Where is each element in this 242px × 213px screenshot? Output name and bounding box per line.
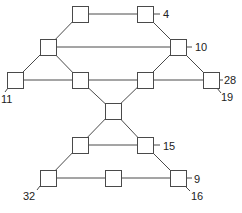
node-E — [8, 73, 24, 89]
node-H — [204, 73, 220, 89]
diagram-canvas: 4102819111591632 — [0, 0, 242, 213]
node-F — [73, 73, 89, 89]
node-label-4: 4 — [163, 8, 169, 20]
network-diagram: 4102819111591632 — [0, 0, 242, 213]
node-M — [106, 171, 122, 187]
node-N — [171, 171, 187, 187]
node-I — [106, 104, 122, 120]
node-label-11: 11 — [1, 93, 12, 105]
node-layer — [8, 7, 220, 187]
node-D — [171, 40, 187, 56]
node-G — [138, 73, 154, 89]
label-tick-32 — [37, 186, 40, 190]
node-C — [41, 40, 57, 56]
node-label-15: 15 — [163, 140, 175, 152]
node-label-9: 9 — [194, 173, 200, 185]
node-label-10: 10 — [195, 41, 207, 53]
node-label-32: 32 — [23, 190, 35, 202]
node-J — [73, 138, 89, 154]
node-label-28: 28 — [224, 74, 236, 86]
node-L — [41, 171, 57, 187]
node-A — [73, 7, 89, 23]
label-tick-layer — [5, 14, 223, 191]
node-label-19: 19 — [221, 91, 233, 103]
node-B — [138, 7, 154, 23]
edge-layer — [15, 14, 211, 178]
node-K — [138, 138, 154, 154]
node-label-16: 16 — [191, 190, 203, 202]
